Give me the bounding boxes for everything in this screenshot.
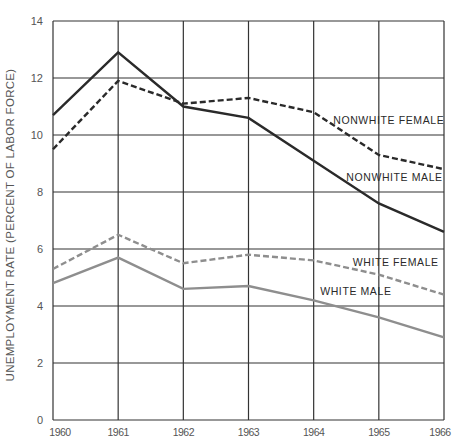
x-tick-label: 1960: [49, 426, 71, 438]
series-label: WHITE FEMALE: [353, 256, 439, 268]
x-tick-label: 1961: [107, 426, 129, 438]
x-tick-label: 1964: [303, 426, 325, 438]
y-axis-ticks: 02468101214: [31, 15, 43, 426]
y-tick-label: 12: [31, 72, 43, 84]
x-tick-label: 1963: [238, 426, 260, 438]
y-tick-label: 8: [37, 186, 43, 198]
x-tick-label: 1966: [429, 426, 451, 438]
unemployment-line-chart: 02468101214 1960196119621963196419651966…: [0, 0, 460, 448]
series-label: NONWHITE FEMALE: [333, 114, 444, 126]
x-tick-label: 1962: [173, 426, 195, 438]
y-tick-label: 14: [31, 15, 43, 27]
x-axis-ticks: 1960196119621963196419651966: [49, 426, 451, 438]
y-tick-label: 0: [37, 414, 43, 426]
y-tick-label: 10: [31, 129, 43, 141]
y-tick-label: 2: [37, 357, 43, 369]
series-label: WHITE MALE: [320, 285, 391, 297]
y-axis-label: UNEMPLOYMENT RATE (PERCENT OF LABOR FORC…: [4, 69, 16, 382]
x-tick-label: 1965: [368, 426, 390, 438]
grid-lines: [53, 21, 444, 420]
series-label: NONWHITE MALE: [346, 171, 442, 183]
y-tick-label: 6: [37, 243, 43, 255]
y-tick-label: 4: [37, 300, 43, 312]
